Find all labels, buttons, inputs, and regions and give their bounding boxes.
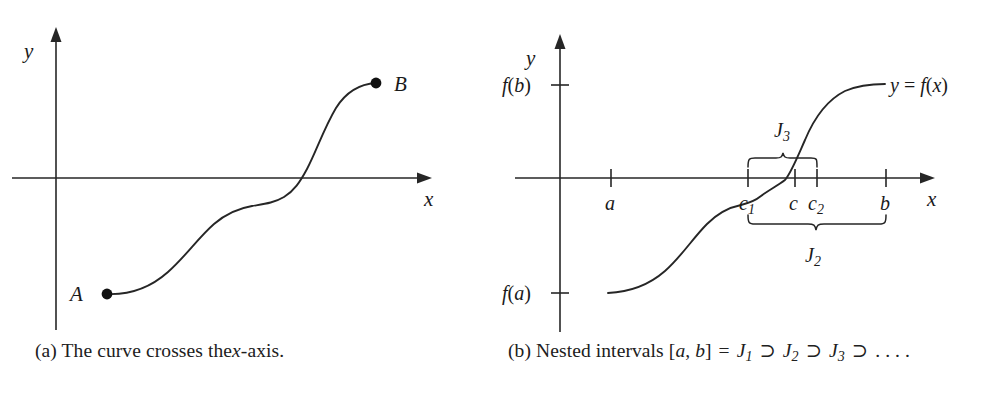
fb-arg: b xyxy=(514,74,524,96)
y-axis-label-a: y xyxy=(22,39,34,63)
y-axis-label-b: y xyxy=(524,46,536,70)
y-axis-arrowhead-b xyxy=(555,34,566,49)
brace-j2 xyxy=(748,215,886,230)
point-b-label: B xyxy=(394,72,407,96)
y-tick-label-fa: f(a) xyxy=(502,282,531,305)
caption-b-prefix: (b) xyxy=(508,340,531,361)
brace-label-j2: J2 xyxy=(805,244,821,269)
curve-a xyxy=(107,83,376,294)
caption-b-bracket-close: ] xyxy=(705,340,712,361)
x-axis-a xyxy=(12,173,432,184)
x-tick-label-b: b xyxy=(880,192,890,214)
curve-label-b: y=f(x) xyxy=(888,74,948,97)
caption-b-j3: J xyxy=(829,340,838,361)
caption-a-math: x xyxy=(232,340,241,361)
caption-b-j2-sub: 2 xyxy=(792,348,799,364)
x-tick-label-c: c xyxy=(789,192,798,214)
caption-b: (b) Nested intervals [a, b] = J1 ⊃ J2 ⊃ … xyxy=(508,337,978,367)
point-b-marker xyxy=(371,78,382,89)
x-axis-arrowhead-b xyxy=(920,173,935,184)
x-axis-b xyxy=(515,173,935,184)
point-a-label: A xyxy=(68,282,83,306)
caption-b-j2: J xyxy=(783,340,792,361)
curve-b xyxy=(608,84,885,293)
x-tick-label-c1: c1 xyxy=(739,192,755,217)
plot-b: y x f(b) f(a) a c1 c c2 b J3 xyxy=(497,0,995,335)
y-axis-b xyxy=(555,34,566,332)
caption-b-text: Nested intervals xyxy=(536,340,664,361)
y-tick-label-fb: f(b) xyxy=(502,74,531,97)
caption-b-interval-a: a xyxy=(675,340,685,361)
caption-a-text-before: The curve crosses the xyxy=(62,340,233,361)
figure-root: y x A B (a) The curve crosses thex-axis. xyxy=(0,0,995,417)
caption-b-j1-sub: 1 xyxy=(745,348,752,364)
fa-arg: a xyxy=(514,282,524,304)
caption-b-interval-b: b xyxy=(695,340,705,361)
caption-b-comma: , xyxy=(685,340,690,361)
figure-panel-a: y x A B (a) The curve crosses thex-axis. xyxy=(0,0,497,417)
x-tick-label-a: a xyxy=(605,192,615,214)
point-a-marker xyxy=(102,289,113,300)
caption-a-prefix: (a) xyxy=(35,340,57,361)
caption-a-text-after: -axis. xyxy=(241,340,284,361)
plot-a: y x A B xyxy=(0,0,497,335)
x-tick-label-c2: c2 xyxy=(808,192,824,217)
caption-b-ellipsis: . . . . xyxy=(875,340,910,361)
caption-b-supset-3: ⊃ xyxy=(850,340,870,361)
caption-b-j3-sub: 3 xyxy=(838,348,845,364)
x-axis-arrowhead-a xyxy=(417,173,432,184)
y-axis-arrowhead-a xyxy=(51,27,62,42)
x-axis-label-b: x xyxy=(926,187,937,211)
brace-label-j3: J3 xyxy=(774,119,790,144)
figure-panel-b: y x f(b) f(a) a c1 c c2 b J3 xyxy=(497,0,995,417)
caption-a: (a) The curve crosses thex-axis. xyxy=(35,337,475,365)
brace-j3 xyxy=(748,153,817,167)
caption-b-supset-2: ⊃ xyxy=(804,340,824,361)
caption-b-equals: = xyxy=(717,340,732,361)
x-axis-label-a: x xyxy=(423,187,434,211)
caption-b-supset-1: ⊃ xyxy=(758,340,778,361)
